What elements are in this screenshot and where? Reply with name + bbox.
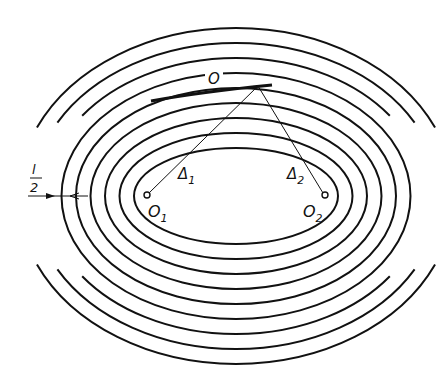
fringe-ring-2 — [120, 133, 353, 259]
fringe-ring-6 — [62, 73, 411, 319]
label-o2: O2 — [303, 202, 323, 225]
focus-o1-marker — [144, 192, 150, 198]
label-spacing-numerator: l — [32, 162, 36, 177]
fringe-ring-9 — [37, 28, 435, 364]
label-delta2: Δ2 — [286, 165, 304, 187]
fringe-ring-1 — [134, 148, 338, 244]
focus-o2-marker — [322, 192, 328, 198]
label-delta1: Δ1 — [177, 165, 195, 187]
arrow-right-icon — [46, 193, 55, 199]
confocal-ellipses-diagram: O Δ1 Δ2 O1 O2 l 2 — [0, 0, 444, 377]
label-spacing-denominator: 2 — [30, 180, 38, 195]
elliptical-fringes — [37, 28, 435, 364]
line-o-o1 — [149, 86, 258, 193]
label-o: O — [208, 70, 220, 88]
fringe-ring-5 — [76, 88, 396, 304]
